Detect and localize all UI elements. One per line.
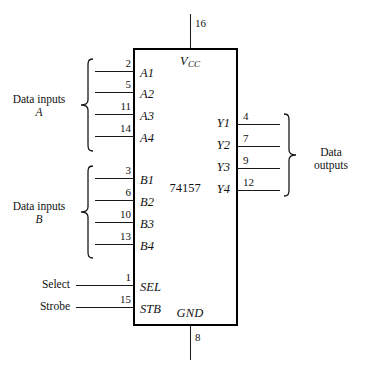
port-label-y3: Y3 [200, 161, 230, 174]
vcc-label-subscript: CC [188, 59, 200, 69]
output-wire-y3 [237, 168, 280, 169]
group-label-data-outputs: Data outputs [300, 146, 362, 172]
group-label-data-outputs-line2: outputs [314, 159, 348, 171]
group-label-data-inputs-b-line1: Data inputs [13, 200, 66, 212]
port-label-b2: B2 [140, 196, 170, 209]
pin-number-y3: 9 [243, 155, 274, 166]
strobe-wire [76, 307, 134, 308]
output-wire-y4 [237, 190, 280, 191]
input-wire-b1 [95, 178, 134, 179]
pin-number-y1: 4 [243, 111, 274, 122]
input-wire-a3 [95, 114, 134, 115]
vcc-wire [190, 14, 191, 48]
group-label-data-inputs-b: Data inputs B [2, 200, 76, 226]
select-wire [76, 285, 134, 286]
port-label-b3: B3 [140, 218, 170, 231]
port-label-a2: A2 [140, 88, 170, 101]
pin-number-b4: 13 [100, 231, 131, 242]
group-brace-inputs-b [80, 165, 94, 259]
input-wire-b2 [95, 200, 134, 201]
group-label-data-outputs-line1: Data [320, 146, 342, 158]
group-label-data-inputs-b-line2: B [35, 213, 42, 225]
ic-pin-diagram: 16 VCC 74157 Data inputs A 2 A1 5 A2 11 … [0, 0, 366, 378]
vcc-pin-number: 16 [195, 18, 219, 29]
port-label-y1: Y1 [200, 117, 230, 130]
pin-number-a3: 11 [100, 101, 131, 112]
pin-number-b1: 3 [100, 165, 131, 176]
pin-number-y4: 12 [243, 177, 274, 188]
input-wire-a1 [95, 71, 134, 72]
port-label-a4: A4 [140, 132, 170, 145]
group-label-data-inputs-a-line2: A [35, 106, 42, 118]
group-label-data-inputs-a: Data inputs A [2, 93, 76, 119]
group-brace-outputs [283, 113, 297, 197]
pin-number-a4: 14 [100, 123, 131, 134]
group-label-data-inputs-a-line1: Data inputs [13, 93, 66, 105]
vcc-label-text: V [180, 54, 188, 68]
gnd-pin-number: 8 [195, 332, 219, 343]
port-label-sel: SEL [140, 281, 176, 294]
output-wire-y2 [237, 146, 280, 147]
pin-number-b2: 6 [100, 187, 131, 198]
port-label-b4: B4 [140, 240, 170, 253]
pin-number-a1: 2 [100, 58, 131, 69]
input-wire-a4 [95, 136, 134, 137]
strobe-label: Strobe [18, 300, 70, 313]
pin-number-sel: 1 [100, 272, 131, 283]
pin-number-a2: 5 [100, 79, 131, 90]
port-label-b1: B1 [140, 174, 170, 187]
select-label: Select [18, 278, 70, 291]
gnd-wire [190, 326, 191, 360]
pin-number-stb: 15 [100, 294, 131, 305]
port-label-a1: A1 [140, 67, 170, 80]
gnd-label: GND [160, 307, 220, 320]
input-wire-a2 [95, 92, 134, 93]
port-label-y4: Y4 [200, 183, 230, 196]
group-brace-inputs-a [80, 58, 94, 152]
port-label-a3: A3 [140, 110, 170, 123]
pin-number-b3: 10 [100, 209, 131, 220]
port-label-y2: Y2 [200, 139, 230, 152]
output-wire-y1 [237, 124, 280, 125]
input-wire-b3 [95, 222, 134, 223]
input-wire-b4 [95, 244, 134, 245]
pin-number-y2: 7 [243, 133, 274, 144]
